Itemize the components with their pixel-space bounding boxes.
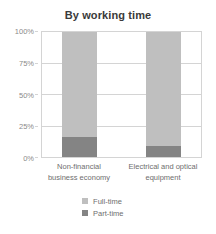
legend: Full-time Part-time bbox=[0, 196, 216, 220]
y-axis-tick-25: 25% bbox=[19, 122, 34, 131]
legend-swatch-part-time-icon bbox=[82, 210, 88, 216]
x-axis-label-2-line-1: Electrical and optical bbox=[120, 161, 206, 172]
y-axis-tick-mark-50 bbox=[35, 94, 38, 95]
y-axis-tick-mark-100 bbox=[35, 31, 38, 32]
plot-area bbox=[41, 31, 202, 158]
bar-segment-part-time bbox=[146, 146, 181, 157]
legend-item-full-time: Full-time bbox=[0, 196, 216, 208]
chart-container: By working time 100% 75% 50% 25% 0% Non-… bbox=[0, 0, 216, 234]
x-axis-label-2: Electrical and optical equipment bbox=[120, 161, 206, 183]
bar-segment-part-time bbox=[62, 137, 97, 157]
legend-label-part-time: Part-time bbox=[93, 209, 123, 218]
bar-non-financial-business-economy bbox=[62, 32, 97, 157]
y-axis-tick-mark-25 bbox=[35, 126, 38, 127]
y-axis-tick-0: 0% bbox=[23, 154, 34, 163]
y-axis-tick-50: 50% bbox=[19, 90, 34, 99]
y-axis-tick-100: 100% bbox=[15, 27, 34, 36]
y-axis: 100% 75% 50% 25% 0% bbox=[0, 31, 38, 158]
x-axis-label-1-line-2: business economy bbox=[36, 172, 122, 183]
x-axis-label-1-line-1: Non-financial bbox=[36, 161, 122, 172]
y-axis-tick-mark-75 bbox=[35, 63, 38, 64]
chart-title: By working time bbox=[0, 9, 216, 21]
legend-swatch-full-time-icon bbox=[82, 198, 88, 204]
x-axis-label-2-line-2: equipment bbox=[120, 172, 206, 183]
bar-segment-full-time bbox=[146, 32, 181, 146]
x-axis-label-1: Non-financial business economy bbox=[36, 161, 122, 183]
legend-label-full-time: Full-time bbox=[93, 197, 122, 206]
bar-segment-full-time bbox=[62, 32, 97, 137]
x-axis-labels: Non-financial business economy Electrica… bbox=[41, 161, 202, 195]
legend-item-part-time: Part-time bbox=[0, 208, 216, 220]
y-axis-tick-mark-0 bbox=[35, 157, 38, 158]
bar-electrical-and-optical-equipment bbox=[146, 32, 181, 157]
y-axis-tick-75: 75% bbox=[19, 58, 34, 67]
